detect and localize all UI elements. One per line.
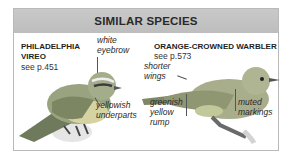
annotation-line: underparts [96, 110, 137, 120]
leader-line [186, 94, 187, 116]
annotation-greenish-yellow-rump: greenish yellow rump [150, 97, 183, 127]
annotation-muted-markings: muted markings [238, 97, 272, 117]
annotation-line: markings [238, 107, 272, 117]
annotation-line: white [97, 35, 129, 45]
annotation-line: yellow [150, 107, 183, 117]
similar-species-panel: SIMILAR SPECIES PHILADELPHIA VIREO see p… [13, 8, 279, 151]
panel-header: SIMILAR SPECIES [14, 9, 278, 33]
leader-line [235, 89, 236, 111]
annotation-line: greenish [150, 97, 183, 107]
annotation-line: yellowish [96, 100, 137, 110]
species-name-line: VIREO [21, 52, 80, 62]
annotation-line: eyebrow [97, 45, 129, 55]
species-name-line: PHILADELPHIA [21, 42, 80, 52]
annotation-yellowish-underparts: yellowish underparts [96, 100, 137, 120]
annotation-line: rump [150, 117, 183, 127]
annotation-line: muted [238, 97, 272, 107]
species-name-philadelphia-vireo: PHILADELPHIA VIREO [21, 42, 80, 61]
annotation-white-eyebrow: white eyebrow [97, 35, 129, 55]
panel-title: SIMILAR SPECIES [94, 15, 197, 27]
